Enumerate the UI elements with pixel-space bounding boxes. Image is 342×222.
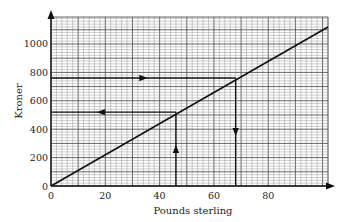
x-axis-arrow-icon <box>326 183 335 190</box>
y-axis-arrow-icon <box>48 10 55 19</box>
x-tick-label: 0 <box>48 190 54 201</box>
y-tick-label: 400 <box>30 124 48 135</box>
y-tick-label: 800 <box>30 67 48 78</box>
x-tick-labels: 020406080 <box>48 190 274 201</box>
x-tick-label: 60 <box>208 190 220 201</box>
y-tick-label: 600 <box>30 95 48 106</box>
y-axis-label: Kroner <box>13 83 24 119</box>
y-tick-label: 0 <box>42 181 48 192</box>
y-tick-label: 1000 <box>24 38 48 49</box>
x-tick-label: 80 <box>262 190 274 201</box>
arrow-left-icon <box>97 109 105 115</box>
y-tick-labels: 02004006008001000 <box>24 38 48 191</box>
x-tick-label: 20 <box>99 190 111 201</box>
x-tick-label: 40 <box>154 190 166 201</box>
y-tick-label: 200 <box>30 152 48 163</box>
x-axis-label: Pounds sterling <box>153 205 233 216</box>
grid <box>51 17 328 186</box>
conversion-chart: 020406080 02004006008001000 Pounds sterl… <box>0 0 342 222</box>
